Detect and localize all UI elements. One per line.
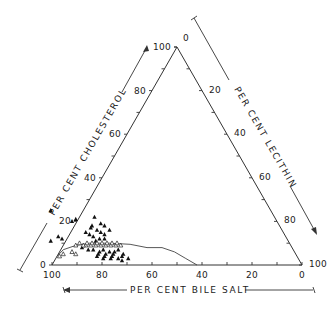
cholesterol-tick-label: 40 xyxy=(84,173,96,183)
filled-triangle-marker xyxy=(92,215,96,219)
lecithin-arrow-tail xyxy=(191,16,197,20)
bile-salt-tick-label: 80 xyxy=(96,270,108,280)
filled-triangle-marker xyxy=(102,223,106,227)
lecithin-tick-label: 60 xyxy=(259,172,271,182)
bile-salt-tick-label: 60 xyxy=(146,270,158,280)
cholesterol-axis-title-group: PER CENT CHOLESTEROL xyxy=(17,45,149,272)
filled-triangle-marker xyxy=(90,223,94,227)
filled-triangle-marker xyxy=(97,250,101,254)
cholesterol-tick-label: 60 xyxy=(109,129,121,139)
bile-salt-axis-title: PER CENT BILE SALT xyxy=(130,285,250,295)
filled-triangle-marker xyxy=(121,252,125,256)
bile-salt-tail-right xyxy=(313,287,315,293)
filled-triangle-marker xyxy=(107,228,111,232)
cholesterol-axis-title: PER CENT CHOLESTEROL xyxy=(47,86,128,217)
lecithin-arrow-line-upper xyxy=(194,18,229,80)
cholesterol-tick-label: 20 xyxy=(59,216,71,226)
bile-salt-axis-title-group: PER CENT BILE SALT xyxy=(63,285,315,295)
filled-triangle-marker xyxy=(101,247,105,251)
filled-triangle-marker xyxy=(99,221,103,225)
open-triangle-marker xyxy=(70,250,74,254)
filled-triangle-marker xyxy=(116,247,120,251)
filled-triangle-marker xyxy=(112,250,116,254)
lecithin-arrowhead-icon xyxy=(311,227,317,235)
filled-triangle-marker xyxy=(107,250,111,254)
filled-triangle-marker xyxy=(84,230,88,234)
lecithin-arrow-line-lower xyxy=(290,186,316,233)
filled-triangle-marker xyxy=(116,256,120,260)
filled-triangle-marker xyxy=(91,247,95,251)
bile-salt-tick-label: 40 xyxy=(196,270,208,280)
filled-triangle-marker xyxy=(74,217,78,221)
cholesterol-tick-label: 100 xyxy=(153,42,171,52)
filled-triangle-marker xyxy=(86,247,90,251)
filled-triangle-marker xyxy=(49,239,53,243)
lecithin-axis-title-group: PER CENT LECITHIN xyxy=(191,16,317,235)
open-triangle-marker xyxy=(77,241,81,245)
lecithin-tick-label: 20 xyxy=(209,85,221,95)
lecithin-tick-label: 40 xyxy=(234,128,246,138)
open-triangle-marker xyxy=(61,252,65,256)
bile-salt-tick-label: 20 xyxy=(246,270,258,280)
filled-triangle-marker xyxy=(102,236,106,240)
filled-triangle-marker xyxy=(120,258,124,262)
filled-triangle-marker xyxy=(60,236,64,240)
bile-salt-tick-label: 0 xyxy=(299,270,305,280)
cholesterol-tick-label: 80 xyxy=(134,86,146,96)
filled-triangle-marker xyxy=(97,236,101,240)
filled-triangle-marker xyxy=(126,256,130,260)
cholesterol-tick-label: 0 xyxy=(40,260,46,270)
filled-triangle-marker xyxy=(104,252,108,256)
cholesterol-arrowhead-icon xyxy=(143,45,149,52)
micellar-limit-curve xyxy=(57,243,197,265)
ternary-phase-diagram: 020406080100020406080100100806040200 PER… xyxy=(0,0,335,310)
bile-salt-tick-label: 100 xyxy=(43,270,61,280)
lecithin-tick-label: 100 xyxy=(309,259,327,269)
lecithin-tick-label: 0 xyxy=(183,33,189,43)
filled-triangle-marker xyxy=(91,234,95,238)
filled-triangle-marker xyxy=(56,234,60,238)
filled-triangle-marker xyxy=(102,232,106,236)
lecithin-tick-label: 80 xyxy=(284,215,296,225)
filled-triangle-marker xyxy=(95,228,99,232)
filled-triangle-marker xyxy=(87,232,91,236)
filled-triangle-marker xyxy=(99,230,103,234)
